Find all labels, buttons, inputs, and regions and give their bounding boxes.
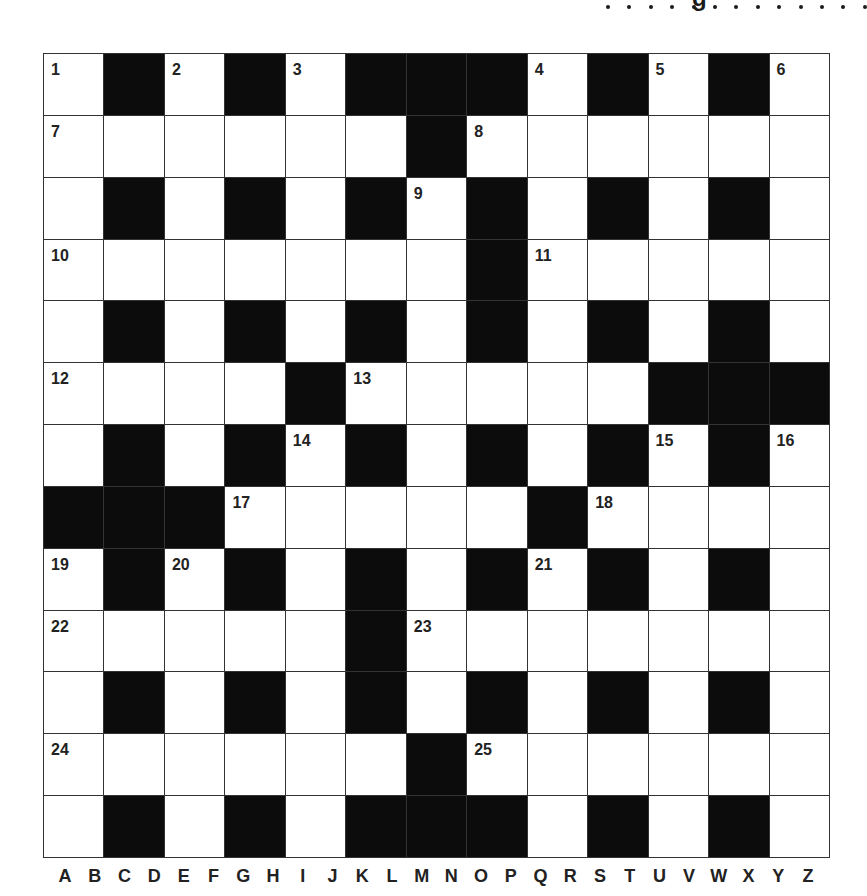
answer-cell[interactable]: 4 [528,54,587,115]
answer-cell[interactable] [649,487,708,548]
answer-cell[interactable] [407,301,466,362]
answer-cell[interactable] [649,734,708,795]
answer-cell[interactable] [165,734,224,795]
answer-cell[interactable] [286,240,345,301]
answer-cell[interactable] [588,240,647,301]
answer-cell[interactable] [225,240,284,301]
answer-cell[interactable] [165,116,224,177]
answer-cell[interactable]: 23 [407,611,466,672]
answer-cell[interactable] [346,487,405,548]
answer-cell[interactable]: 11 [528,240,587,301]
answer-cell[interactable] [407,549,466,610]
answer-cell[interactable] [225,363,284,424]
answer-cell[interactable] [528,425,587,486]
answer-cell[interactable] [528,178,587,239]
answer-cell[interactable]: 7 [44,116,103,177]
answer-cell[interactable] [165,425,224,486]
answer-cell[interactable] [407,363,466,424]
answer-cell[interactable] [709,116,768,177]
answer-cell[interactable] [770,796,829,857]
answer-cell[interactable]: 22 [44,611,103,672]
answer-cell[interactable] [709,487,768,548]
answer-cell[interactable] [286,734,345,795]
answer-cell[interactable] [165,178,224,239]
answer-cell[interactable] [467,363,526,424]
answer-cell[interactable] [528,672,587,733]
answer-cell[interactable]: 2 [165,54,224,115]
answer-cell[interactable] [104,734,163,795]
answer-cell[interactable] [770,116,829,177]
answer-cell[interactable]: 17 [225,487,284,548]
answer-cell[interactable] [286,549,345,610]
answer-cell[interactable]: 6 [770,54,829,115]
answer-cell[interactable] [286,611,345,672]
answer-cell[interactable]: 24 [44,734,103,795]
answer-cell[interactable] [588,734,647,795]
answer-cell[interactable] [225,734,284,795]
answer-cell[interactable] [528,611,587,672]
answer-cell[interactable] [528,734,587,795]
answer-cell[interactable]: 8 [467,116,526,177]
answer-cell[interactable] [165,672,224,733]
answer-cell[interactable] [407,672,466,733]
answer-cell[interactable] [709,611,768,672]
answer-cell[interactable] [165,796,224,857]
answer-cell[interactable]: 9 [407,178,466,239]
answer-cell[interactable] [44,672,103,733]
answer-cell[interactable] [286,796,345,857]
answer-cell[interactable] [286,301,345,362]
answer-cell[interactable] [770,178,829,239]
answer-cell[interactable] [528,363,587,424]
answer-cell[interactable] [165,611,224,672]
answer-cell[interactable] [286,672,345,733]
answer-cell[interactable] [407,487,466,548]
answer-cell[interactable] [770,301,829,362]
answer-cell[interactable]: 13 [346,363,405,424]
answer-cell[interactable] [44,796,103,857]
answer-cell[interactable]: 14 [286,425,345,486]
answer-cell[interactable] [588,116,647,177]
answer-cell[interactable] [588,611,647,672]
answer-cell[interactable] [165,240,224,301]
answer-cell[interactable] [528,301,587,362]
answer-cell[interactable] [104,363,163,424]
answer-cell[interactable] [649,672,708,733]
answer-cell[interactable] [709,240,768,301]
answer-cell[interactable] [44,425,103,486]
answer-cell[interactable] [407,425,466,486]
answer-cell[interactable] [649,549,708,610]
answer-cell[interactable] [770,549,829,610]
answer-cell[interactable] [44,178,103,239]
answer-cell[interactable] [649,116,708,177]
answer-cell[interactable] [467,487,526,548]
answer-cell[interactable] [346,734,405,795]
answer-cell[interactable] [649,611,708,672]
answer-cell[interactable] [346,240,405,301]
answer-cell[interactable]: 15 [649,425,708,486]
answer-cell[interactable] [770,487,829,548]
answer-cell[interactable] [286,487,345,548]
answer-cell[interactable] [649,301,708,362]
answer-cell[interactable]: 3 [286,54,345,115]
answer-cell[interactable] [346,116,405,177]
answer-cell[interactable] [286,178,345,239]
answer-cell[interactable] [225,611,284,672]
answer-cell[interactable] [770,611,829,672]
answer-cell[interactable] [44,301,103,362]
answer-cell[interactable] [165,363,224,424]
answer-cell[interactable]: 12 [44,363,103,424]
answer-cell[interactable] [104,611,163,672]
answer-cell[interactable] [104,240,163,301]
answer-cell[interactable]: 10 [44,240,103,301]
answer-cell[interactable] [286,116,345,177]
answer-cell[interactable] [709,734,768,795]
answer-cell[interactable]: 25 [467,734,526,795]
answer-cell[interactable]: 21 [528,549,587,610]
answer-cell[interactable] [770,240,829,301]
answer-cell[interactable] [770,734,829,795]
answer-cell[interactable] [528,116,587,177]
answer-cell[interactable] [770,672,829,733]
answer-cell[interactable] [225,116,284,177]
answer-cell[interactable] [165,301,224,362]
answer-cell[interactable] [649,178,708,239]
